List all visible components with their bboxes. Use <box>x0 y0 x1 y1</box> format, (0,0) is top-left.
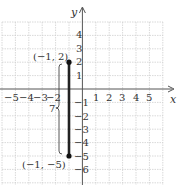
svg-text:4: 4 <box>133 92 139 103</box>
svg-text:2: 2 <box>76 56 82 67</box>
y-tick-neg1: −1 <box>74 97 89 108</box>
y-tick-neg6: −6 <box>74 164 89 175</box>
svg-text:1: 1 <box>93 92 99 103</box>
coordinate-plane: x y −5 −4 −3 −2 1 2 3 4 5 4 3 2 1 −1 −2 … <box>0 0 180 185</box>
point-top-label: (−1, 2) <box>33 51 68 62</box>
x-axis-label: x <box>170 93 177 106</box>
distance-label: 7 <box>49 103 55 114</box>
svg-text:4: 4 <box>76 29 82 40</box>
distance-brace <box>56 64 62 154</box>
svg-text:−5: −5 <box>4 92 19 103</box>
y-tick-neg2: −2 <box>74 111 89 122</box>
y-tick-neg3: −3 <box>74 124 89 135</box>
svg-text:5: 5 <box>146 92 152 103</box>
svg-text:3: 3 <box>119 92 125 103</box>
svg-text:−4: −4 <box>19 92 34 103</box>
point-bottom <box>66 153 71 158</box>
y-tick-labels: 4 3 2 1 −1 −2 −3 −4 −5 −6 <box>74 29 89 175</box>
svg-text:3: 3 <box>76 43 82 54</box>
point-bottom-label: (−1, −5) <box>22 159 66 170</box>
y-tick-neg5: −5 <box>74 151 89 162</box>
y-tick-neg4: −4 <box>74 137 89 148</box>
svg-text:1: 1 <box>76 70 82 81</box>
y-axis-label: y <box>70 6 78 19</box>
svg-text:2: 2 <box>106 92 112 103</box>
svg-text:−2: −2 <box>46 92 61 103</box>
